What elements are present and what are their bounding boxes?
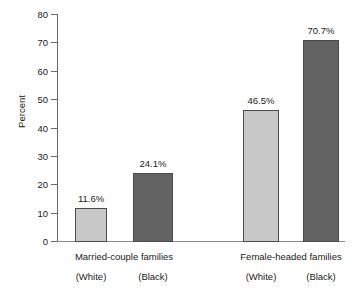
group-label-female-headed: Female-headed families [221, 252, 361, 262]
y-tick-mark-0 [51, 241, 57, 242]
bar-female-black [303, 40, 339, 242]
sub-label-married-white: (White) [61, 272, 121, 282]
bar-chart-figure: Percent 80 70 60 50 40 30 20 10 0 11.6% … [0, 0, 362, 292]
y-tick-mark-80 [51, 14, 57, 15]
y-axis-line [57, 14, 58, 242]
y-tick-label-20: 20 [8, 180, 48, 190]
y-tick-label-40: 40 [8, 124, 48, 134]
sub-label-female-white: (White) [231, 272, 291, 282]
y-tick-label-50: 50 [8, 95, 48, 105]
y-tick-label-30: 30 [8, 152, 48, 162]
sub-label-female-black: (Black) [291, 272, 351, 282]
y-tick-mark-40 [51, 128, 57, 129]
y-tick-mark-50 [51, 99, 57, 100]
y-tick-label-10: 10 [8, 209, 48, 219]
bar-married-white [75, 208, 107, 242]
bar-value-married-white: 11.6% [61, 194, 121, 204]
bar-value-married-black: 24.1% [123, 159, 183, 169]
y-tick-label-60: 60 [8, 67, 48, 77]
y-tick-mark-60 [51, 71, 57, 72]
sub-label-married-black: (Black) [123, 272, 183, 282]
y-tick-label-0: 0 [8, 237, 48, 247]
y-tick-mark-70 [51, 42, 57, 43]
group-label-married-couple: Married-couple families [54, 252, 194, 262]
y-tick-label-80: 80 [8, 10, 48, 20]
y-tick-label-70: 70 [8, 38, 48, 48]
y-tick-mark-10 [51, 213, 57, 214]
bar-female-white [243, 110, 279, 242]
bar-value-female-white: 46.5% [231, 96, 291, 106]
y-tick-mark-20 [51, 184, 57, 185]
bar-value-female-black: 70.7% [291, 26, 351, 36]
y-tick-mark-30 [51, 156, 57, 157]
y-axis-title: Percent [16, 77, 27, 147]
bar-married-black [133, 173, 173, 242]
